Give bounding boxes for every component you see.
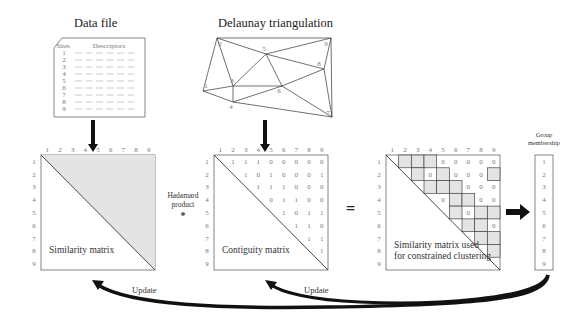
triangulation-title: Delaunay triangulation: [218, 16, 333, 31]
triangulation-edge: [233, 54, 266, 86]
similarity-matrix-col-index: 9: [147, 146, 151, 154]
contiguity-cell: 0: [295, 209, 299, 217]
triangulation-edge: [217, 38, 266, 54]
constrained-matrix-col-index: 6: [454, 146, 458, 154]
similarity-matrix-row-index: 2: [32, 171, 36, 179]
contiguity-matrix-row-index: 6: [205, 222, 209, 230]
contiguity-matrix-col-index: 1: [219, 146, 223, 154]
similarity-matrix-row-index: 1: [32, 158, 36, 166]
constrained-cell-shaded: [399, 155, 412, 168]
contiguity-matrix-row-index: 3: [205, 183, 209, 191]
contiguity-cell: 1: [320, 171, 324, 179]
constrained-matrix-row-index: 7: [377, 235, 381, 243]
contiguity-matrix-col-index: 3: [244, 146, 248, 154]
constrained-cell-shaded: [437, 168, 450, 181]
triangulation-edge: [266, 38, 331, 54]
contiguity-matrix-row-index: 1: [205, 158, 209, 166]
constrained-label-1: Similarity matrix used: [394, 240, 479, 250]
triangulation-edge: [203, 91, 233, 102]
hadamard-line2: product: [163, 200, 203, 209]
node-label: 6: [277, 87, 281, 95]
similarity-matrix-col-index: 5: [96, 146, 100, 154]
triangulation-edge: [282, 69, 324, 86]
constrained-cell-shaded: [424, 155, 437, 168]
contiguity-matrix-row-index: 4: [205, 196, 209, 204]
hadamard-symbol: *: [163, 211, 203, 220]
group-value: 4: [542, 196, 546, 204]
contiguity-cell: 0: [307, 196, 311, 204]
constrained-matrix-row-index: 5: [377, 209, 381, 217]
contiguity-cell: 1: [257, 183, 261, 191]
similarity-matrix-row-index: 6: [32, 222, 36, 230]
similarity-matrix-row-index: 8: [32, 247, 36, 255]
contiguity-cell: 1: [282, 209, 286, 217]
similarity-matrix-col-index: 1: [46, 146, 50, 154]
constrained-cell-shaded: [487, 168, 500, 181]
contiguity-matrix-row-index: 9: [205, 260, 209, 268]
constrained-cell-zero: 0: [479, 171, 483, 179]
contiguity-cell: 1: [320, 247, 324, 255]
similarity-matrix-row-index: 4: [32, 196, 36, 204]
group-value: 8: [542, 247, 546, 255]
contiguity-cell: 1: [307, 209, 311, 217]
update-label-left: Update: [132, 285, 157, 295]
constrained-cell-shaded: [437, 181, 450, 194]
contiguity-cell: 0: [269, 158, 273, 166]
contiguity-cell: 1: [307, 235, 311, 243]
node-label: 8: [317, 60, 321, 68]
similarity-matrix-col-index: 8: [134, 146, 138, 154]
contiguity-cell: 1: [307, 222, 311, 230]
constrained-matrix-col-index: 8: [479, 146, 483, 154]
constrained-matrix-col-index: 5: [441, 146, 445, 154]
contiguity-cell: 0: [320, 222, 324, 230]
constrained-cell-zero: 0: [479, 196, 483, 204]
contiguity-matrix-col-index: 4: [257, 146, 261, 154]
contiguity-cell: 0: [320, 183, 324, 191]
constrained-matrix-row-index: 4: [377, 196, 381, 204]
triangulation-edge: [233, 102, 332, 117]
constrained-cell-zero: 0: [454, 158, 458, 166]
contiguity-cell: 1: [282, 196, 286, 204]
arrow-right: [506, 204, 530, 220]
contiguity-matrix-row-index: 8: [205, 247, 209, 255]
constrained-matrix-col-index: 7: [467, 146, 471, 154]
constrained-cell-shaded: [424, 181, 437, 194]
similarity-matrix-row-index: 7: [32, 235, 36, 243]
similarity-matrix-row-index: 9: [32, 260, 36, 268]
contiguity-cell: 1: [244, 171, 248, 179]
contiguity-cell: 0: [307, 183, 311, 191]
contiguity-matrix-col-index: 6: [282, 146, 286, 154]
constrained-cell-zero: 0: [467, 158, 471, 166]
constrained-cell-shaded: [475, 219, 488, 232]
constrained-matrix-col-index: 1: [391, 146, 395, 154]
update-label-right: Update: [304, 285, 329, 295]
constrained-cell-zero: 0: [492, 183, 496, 191]
constrained-cell-zero: 0: [441, 158, 445, 166]
col-descriptors-header: Descriptors: [93, 42, 126, 50]
constrained-cell-zero: 0: [467, 171, 471, 179]
constrained-matrix-row-index: 2: [377, 171, 381, 179]
group-value: 2: [542, 171, 546, 179]
contiguity-matrix-row-index: 5: [205, 209, 209, 217]
constrained-cell-zero: 0: [492, 222, 496, 230]
constrained-cell-zero: 0: [441, 196, 445, 204]
group-title-line1: Group: [524, 131, 564, 139]
contiguity-cell: 0: [307, 158, 311, 166]
constrained-cell-shaded: [487, 232, 500, 245]
contiguity-cell: 0: [295, 183, 299, 191]
constrained-cell-zero: 0: [479, 158, 483, 166]
contiguity-cell: 0: [257, 171, 261, 179]
node-label: 5: [262, 45, 266, 53]
constrained-cell-zero: 0: [454, 171, 458, 179]
contiguity-cell: 0: [307, 171, 311, 179]
contiguity-matrix-col-index: 9: [320, 146, 324, 154]
triangulation-edge: [331, 38, 332, 117]
contiguity-cell: 1: [231, 158, 235, 166]
constrained-cell-shaded: [449, 181, 462, 194]
contiguity-cell: 0: [282, 158, 286, 166]
contiguity-matrix-col-index: 8: [307, 146, 311, 154]
contiguity-cell: 1: [320, 209, 324, 217]
similarity-matrix-row-index: 5: [32, 209, 36, 217]
arrow-down-triangulation-shaft: [263, 120, 267, 146]
contiguity-matrix-col-index: 2: [231, 146, 235, 154]
